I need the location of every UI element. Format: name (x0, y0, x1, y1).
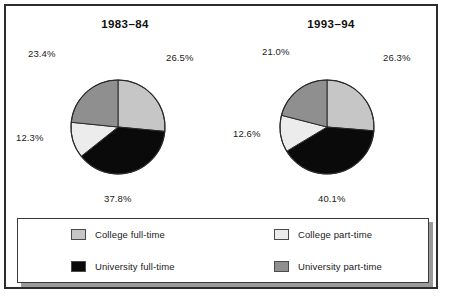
chart-title-1983-84: 1983–84 (85, 18, 165, 30)
swatch-college-part-time-icon (274, 229, 289, 240)
swatch-college-full-time-icon (71, 229, 86, 240)
pie-svg-1993-94 (257, 57, 397, 197)
legend-label-college-part-time: College part-time (298, 229, 372, 240)
pie-slice (71, 80, 118, 127)
figure-canvas: 1983–84 1993–94 23.4% 26.5% 12.3% 37.8% … (0, 0, 451, 302)
pie-slice (327, 80, 374, 131)
pie-svg-1983-84 (48, 57, 188, 197)
pie-chart-1983-84 (48, 57, 188, 197)
pie-chart-1993-94 (257, 57, 397, 197)
pct-label-1983-university-full-time: 37.8% (104, 193, 131, 204)
legend-label-college-full-time: College full-time (95, 229, 165, 240)
legend-item-university-full-time[interactable]: University full-time (18, 261, 223, 272)
chart-title-1993-94: 1993–94 (291, 18, 371, 30)
pct-label-1983-college-full-time: 26.5% (166, 52, 193, 63)
pct-label-1993-college-part-time: 12.6% (233, 128, 260, 139)
legend-item-college-full-time[interactable]: College full-time (18, 229, 223, 240)
legend-label-university-part-time: University part-time (298, 261, 382, 272)
swatch-university-full-time-icon (71, 261, 86, 272)
swatch-university-part-time-icon (274, 261, 289, 272)
legend-item-university-part-time[interactable]: University part-time (223, 261, 428, 272)
legend-label-university-full-time: University full-time (95, 261, 175, 272)
legend-box: College full-time College part-time Univ… (17, 218, 429, 283)
pct-label-1983-university-part-time: 23.4% (28, 48, 55, 59)
pct-label-1993-university-part-time: 21.0% (262, 46, 289, 57)
pct-label-1983-college-part-time: 12.3% (16, 132, 43, 143)
pct-label-1993-university-full-time: 40.1% (318, 193, 345, 204)
pie-slice (118, 80, 165, 131)
legend-item-college-part-time[interactable]: College part-time (223, 229, 428, 240)
pct-label-1993-college-full-time: 26.3% (383, 52, 410, 63)
